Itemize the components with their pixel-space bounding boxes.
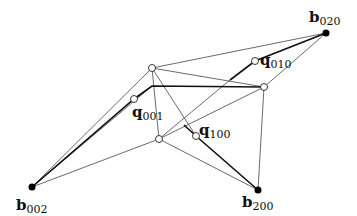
vertex-b020 xyxy=(323,30,330,37)
control-point-right xyxy=(261,84,268,91)
label-b002: b002 xyxy=(16,198,48,215)
vertex-b200 xyxy=(255,187,262,194)
edge-top-right xyxy=(152,68,264,87)
control-point-bottom xyxy=(156,136,163,143)
point-q010 xyxy=(252,58,259,65)
bezier-triangle-diagram xyxy=(0,0,357,216)
label-b200: b200 xyxy=(242,195,274,212)
edge-bottom-b002 xyxy=(32,139,159,187)
point-q001 xyxy=(131,96,138,103)
diagram-canvas: b020 b002 b200 q010 q001 q100 xyxy=(0,0,357,216)
edge-b002-top xyxy=(32,68,152,187)
edge-top-b020 xyxy=(152,33,326,68)
edge-top-q100 xyxy=(152,68,196,136)
vertex-b002 xyxy=(29,184,36,191)
edge-top-bottom xyxy=(152,68,159,139)
label-q001: q001 xyxy=(132,105,164,122)
control-point-top xyxy=(149,65,156,72)
label-b020: b020 xyxy=(309,10,341,27)
label-q010: q010 xyxy=(260,53,292,70)
label-q100: q100 xyxy=(199,123,231,140)
edge-right-b200 xyxy=(258,87,264,190)
